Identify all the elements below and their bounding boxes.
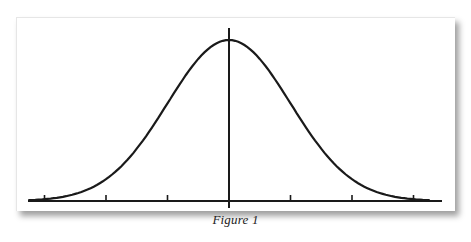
bell-curve-figure <box>0 0 471 242</box>
figure-caption: Figure 1 <box>0 212 471 228</box>
